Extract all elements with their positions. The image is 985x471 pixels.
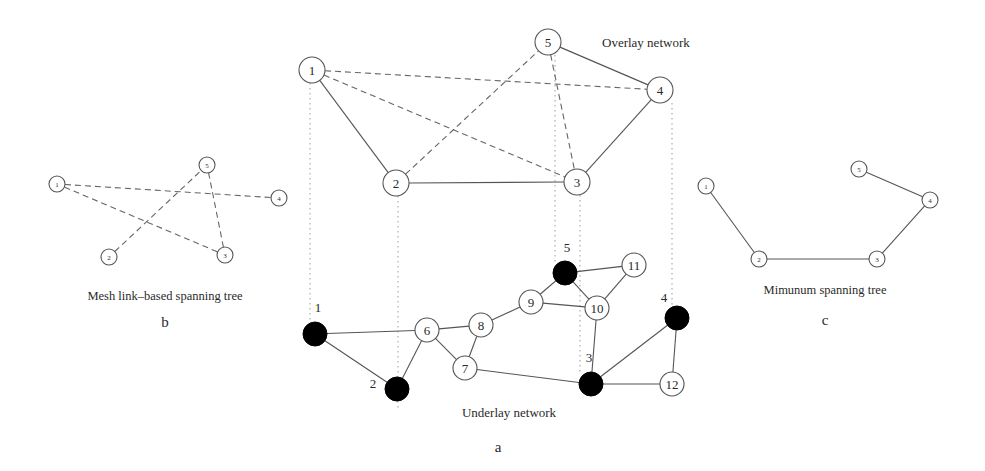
underlay-edge-6-8 — [439, 326, 469, 329]
underlay-edge-3-4 — [601, 325, 668, 376]
mst-edges — [711, 172, 925, 259]
underlay-node-9: 9 — [519, 290, 543, 314]
diagram-svg: 12345 123456789101112 Overlay network Un… — [0, 0, 985, 471]
mst-node-2: 2 — [751, 251, 767, 267]
underlay-node-6: 6 — [415, 318, 439, 342]
underlay-node-11: 11 — [622, 253, 646, 277]
node-label: 6 — [424, 323, 431, 338]
node-label: 5 — [205, 162, 209, 170]
node-label: 3 — [875, 256, 879, 264]
node-circle — [385, 377, 409, 401]
overlay-mesh-link-1-3 — [324, 75, 565, 177]
panel-c-caption: c — [822, 312, 829, 328]
node-circle — [579, 372, 603, 396]
mst-edge-4-5 — [866, 172, 922, 197]
node-label: 5 — [545, 35, 552, 50]
underlay-node-7: 7 — [453, 356, 477, 380]
mesh-tree-nodes: 12345 — [49, 157, 287, 265]
node-circle — [665, 306, 689, 330]
node-label: 3 — [586, 350, 593, 365]
underlay-node-5: 5 — [553, 240, 577, 285]
overlay-mesh-link-2-5 — [406, 51, 539, 174]
mst-nodes: 12345 — [698, 161, 938, 267]
underlay-network-title: Underlay network — [462, 405, 557, 420]
underlay-node-10: 10 — [585, 296, 609, 320]
node-label: 1 — [704, 183, 708, 191]
mesh-tree-edges — [64, 170, 271, 251]
underlay-edge-10-3 — [592, 320, 596, 372]
node-label: 8 — [478, 318, 485, 333]
underlay-edge-8-9 — [492, 307, 520, 320]
node-label: 4 — [277, 195, 281, 203]
mesh-tree-node-2: 2 — [101, 249, 117, 265]
node-label: 4 — [928, 197, 932, 205]
panel-a-caption: a — [495, 439, 502, 455]
node-circle — [303, 322, 327, 346]
overlay-mesh-link-1-4 — [325, 71, 647, 90]
node-label: 3 — [574, 175, 581, 190]
mst-title: Mimunum spanning tree — [764, 283, 887, 297]
node-label: 3 — [223, 252, 227, 260]
underlay-node-3: 3 — [579, 350, 603, 396]
node-label: 11 — [628, 258, 641, 273]
node-label: 5 — [564, 240, 571, 255]
overlay-underlay-mapping-lines — [310, 55, 672, 410]
mesh-link-1-3 — [64, 187, 217, 252]
mst-node-4: 4 — [922, 192, 938, 208]
underlay-edge-7-3 — [477, 370, 579, 383]
node-label: 2 — [393, 176, 400, 191]
overlay-network-title: Overlay network — [602, 35, 690, 50]
mesh-tree-node-1: 1 — [49, 176, 65, 192]
overlay-node-3: 3 — [564, 169, 590, 195]
underlay-edge-9-10 — [543, 303, 585, 307]
underlay-edge-7-8 — [469, 336, 477, 357]
underlay-edge-5-11 — [577, 266, 622, 271]
node-label: 1 — [55, 181, 59, 189]
underlay-edge-9-5 — [540, 281, 556, 294]
node-label: 9 — [528, 295, 535, 310]
underlay-node-8: 8 — [469, 313, 493, 337]
underlay-edge-5-10 — [573, 282, 589, 299]
overlay-nodes: 12345 — [299, 29, 673, 196]
panel-c-minimum-spanning-tree: 12345 Mimunum spanning tree c — [698, 161, 938, 328]
node-label: 4 — [661, 290, 668, 305]
overlay-edge-3-4 — [586, 100, 652, 173]
mesh-tree-node-5: 5 — [199, 157, 215, 173]
underlay-edge-4-12 — [673, 330, 676, 372]
mesh-tree-title: Mesh link–based spanning tree — [87, 289, 243, 303]
mst-edge-1-2 — [711, 192, 755, 252]
mesh-link-1-4 — [65, 185, 271, 198]
underlay-node-1: 1 — [303, 300, 327, 346]
node-label: 1 — [309, 63, 316, 78]
overlay-edge-1-2 — [320, 80, 388, 172]
overlay-node-1: 1 — [299, 57, 325, 83]
mst-node-1: 1 — [698, 178, 714, 194]
node-label: 1 — [315, 300, 322, 315]
underlay-node-2: 2 — [370, 376, 409, 401]
mesh-tree-node-3: 3 — [217, 247, 233, 263]
underlay-node-12: 12 — [660, 372, 684, 396]
network-diagram-figure: 12345 123456789101112 Overlay network Un… — [0, 0, 985, 471]
node-label: 4 — [657, 83, 664, 98]
underlay-edges — [325, 266, 676, 384]
node-label: 2 — [370, 376, 377, 391]
panel-a-overlay-underlay: 12345 123456789101112 Overlay network Un… — [299, 29, 690, 455]
underlay-edge-6-7 — [435, 338, 456, 359]
node-label: 2 — [107, 254, 111, 262]
underlay-edge-2-6 — [402, 341, 421, 379]
mst-node-5: 5 — [851, 161, 867, 177]
node-label: 5 — [857, 166, 861, 174]
overlay-edge-2-3 — [409, 182, 564, 183]
node-label: 2 — [757, 256, 761, 264]
mst-edge-3-4 — [882, 206, 924, 253]
overlay-edge-4-5 — [560, 47, 648, 85]
node-label: 7 — [462, 361, 469, 376]
node-label: 12 — [666, 377, 679, 392]
panel-b-mesh-spanning-tree: 12345 Mesh link–based spanning tree b — [49, 157, 287, 330]
overlay-mesh-link-5-3 — [551, 55, 575, 170]
overlay-node-4: 4 — [647, 77, 673, 103]
panel-b-caption: b — [161, 314, 169, 330]
node-label: 10 — [591, 301, 604, 316]
mesh-link-3-5 — [209, 173, 224, 247]
underlay-nodes: 123456789101112 — [303, 240, 689, 401]
